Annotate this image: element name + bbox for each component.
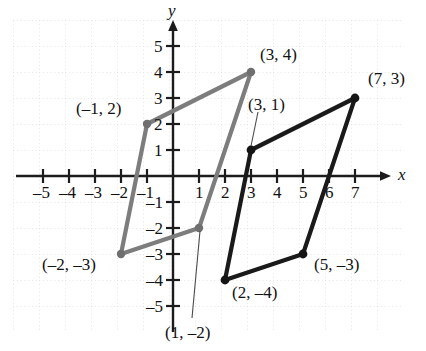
x-axis-label: x xyxy=(398,166,406,183)
point-label-neg1-2: (–1, 2) xyxy=(76,100,121,117)
y-tick-label--1: –1 xyxy=(146,194,163,211)
y-axis-label: y xyxy=(168,2,176,19)
x-tick-label--3: –3 xyxy=(85,184,102,201)
y-tick-label--4: –4 xyxy=(146,272,163,289)
plot-canvas xyxy=(0,0,426,351)
vertex-3-4 xyxy=(247,68,255,76)
point-label-3-1: (3, 1) xyxy=(248,96,285,113)
point-label-1-neg2: (1, –2) xyxy=(165,324,210,341)
vertex-7-3 xyxy=(351,94,360,103)
y-tick-label-5: 5 xyxy=(154,38,163,55)
vertex-3-1 xyxy=(247,146,256,155)
y-tick-label-4: 4 xyxy=(154,64,163,81)
y-tick-label--2: –2 xyxy=(146,220,163,237)
x-tick-label-7: 7 xyxy=(351,184,360,201)
vertex-neg1-2 xyxy=(143,120,151,128)
x-tick-label--4: –4 xyxy=(59,184,76,201)
x-tick-label-1: 1 xyxy=(195,184,204,201)
y-tick-label-2: 2 xyxy=(154,116,163,133)
x-tick-label-3: 3 xyxy=(247,184,256,201)
point-label-7-3: (7, 3) xyxy=(368,70,405,87)
x-tick-label-2: 2 xyxy=(221,184,230,201)
vertex-1-neg2 xyxy=(195,224,203,232)
x-tick-label--2: –2 xyxy=(111,184,128,201)
x-tick-label-6: 6 xyxy=(325,184,334,201)
y-tick-label-3: 3 xyxy=(154,90,163,107)
x-tick-label--5: –5 xyxy=(33,184,50,201)
vertex-2-neg4 xyxy=(221,276,230,285)
y-tick-label--5: –5 xyxy=(146,298,163,315)
point-label-5-neg3: (5, –3) xyxy=(314,256,359,273)
y-tick-label-1: 1 xyxy=(154,142,163,159)
vertex-neg2-neg3 xyxy=(117,250,125,258)
point-label-2-neg4: (2, –4) xyxy=(232,284,277,301)
x-tick-label-4: 4 xyxy=(273,184,282,201)
point-label-3-4: (3, 4) xyxy=(260,46,297,63)
vertex-5-neg3 xyxy=(299,250,308,259)
point-label-neg2-neg3: (–2, –3) xyxy=(42,256,96,273)
coordinate-plane-figure: y x –5 –4 –3 –2 –1 1 2 3 4 5 6 7 5 4 3 2… xyxy=(0,0,426,351)
y-tick-label--3: –3 xyxy=(146,246,163,263)
x-tick-label-5: 5 xyxy=(299,184,308,201)
